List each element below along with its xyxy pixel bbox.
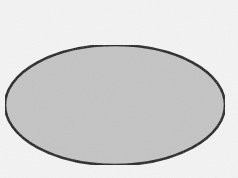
diagram-svg xyxy=(0,0,238,178)
diagram-canvas xyxy=(0,0,238,178)
ellipse-shape xyxy=(5,45,225,165)
